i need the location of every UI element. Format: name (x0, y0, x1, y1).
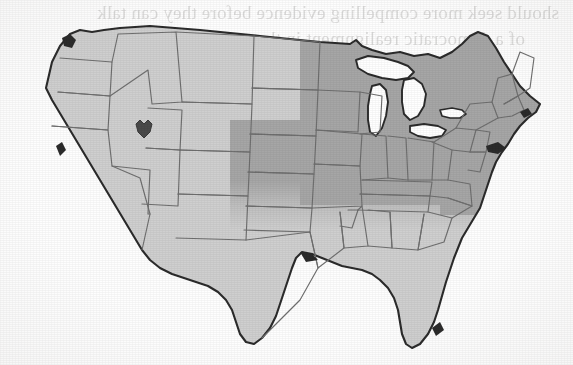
map-fill-layer (0, 0, 573, 365)
scanned-page: should seek more compelling evidence bef… (0, 0, 573, 365)
us-map (0, 0, 573, 365)
us-map-svg (0, 0, 573, 365)
san-francisco-bay-detail (56, 142, 66, 156)
